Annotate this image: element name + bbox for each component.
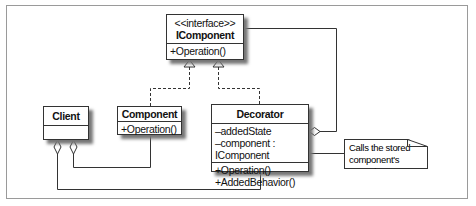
aggregation-diamond-icon xyxy=(70,140,77,154)
attributes xyxy=(44,126,88,140)
operations: +Operation() xyxy=(118,122,181,136)
class-name: Client xyxy=(46,110,86,122)
aggregation-diamond-icon xyxy=(309,128,320,136)
realization-decorator xyxy=(219,67,260,104)
attribute: –component : IComponent xyxy=(215,137,305,161)
operation: +AddedBehavior() xyxy=(215,176,305,188)
attribute: –addedState xyxy=(215,125,305,137)
operations: +Operation() +AddedBehavior() xyxy=(212,163,308,189)
realization-arrow-icon xyxy=(213,60,224,67)
operation: +Operation() xyxy=(215,164,305,176)
attributes: –addedState –component : IComponent xyxy=(212,124,308,163)
class-name: Component xyxy=(120,108,179,120)
operations: +Operation() xyxy=(167,44,243,58)
note-fold-icon xyxy=(407,139,428,147)
aggregation-diamond-icon xyxy=(54,140,61,154)
realization-arrow-icon xyxy=(184,60,195,67)
class-name: Decorator xyxy=(214,108,306,120)
class-client: Client xyxy=(43,106,89,140)
stereotype: <<interface>> xyxy=(169,17,241,29)
class-decorator: Decorator –addedState –component : IComp… xyxy=(211,104,309,172)
class-name: IComponent xyxy=(169,29,241,41)
class-component: Component +Operation() xyxy=(117,106,182,135)
class-icomponent: <<interface>> IComponent +Operation() xyxy=(166,14,244,60)
realization-component xyxy=(151,67,190,106)
